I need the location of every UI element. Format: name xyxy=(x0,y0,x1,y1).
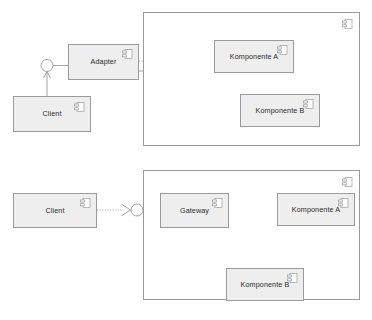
node-komponente-b-top[interactable]: Komponente B xyxy=(240,94,320,127)
component-icon xyxy=(303,99,314,109)
connector-client-to-gateway-iface xyxy=(97,204,143,216)
component-icon xyxy=(212,198,223,208)
component-icon xyxy=(342,177,353,187)
component-icon xyxy=(74,102,85,112)
node-gateway[interactable]: Gateway xyxy=(160,193,229,228)
node-adapter[interactable]: Adapter xyxy=(68,44,139,80)
component-icon xyxy=(277,45,288,55)
node-komponente-a-top[interactable]: Komponente A xyxy=(214,40,294,73)
component-icon xyxy=(122,49,133,59)
diagram-canvas: Client Adapter Komponente A xyxy=(0,0,372,320)
component-icon xyxy=(287,273,298,283)
node-label: Adapter xyxy=(69,58,138,66)
node-komponente-b-bottom[interactable]: Komponente B xyxy=(226,268,304,301)
node-komponente-a-bottom[interactable]: Komponente A xyxy=(277,193,355,226)
component-icon xyxy=(342,19,353,29)
node-client-bottom[interactable]: Client xyxy=(13,193,97,228)
component-icon xyxy=(80,198,91,208)
node-client-top[interactable]: Client xyxy=(13,96,91,132)
connector-client-to-adapter-ball xyxy=(44,72,51,97)
component-icon xyxy=(338,198,349,208)
iface-adapter-provided-ball-icon xyxy=(41,60,53,72)
